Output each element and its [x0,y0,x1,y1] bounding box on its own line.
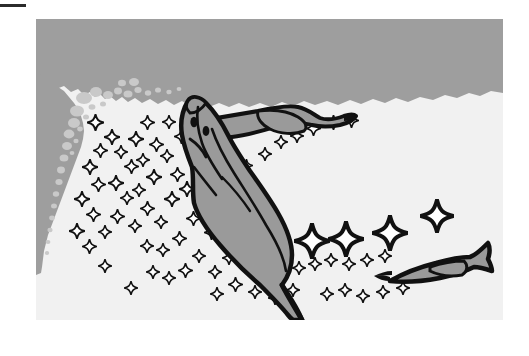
scale-bar-rule [0,4,26,7]
figure-illustration [36,19,503,320]
larva-eye-left [190,117,197,127]
figure-panel [36,19,503,320]
page-root: Fish larvae feeding on plankton near a s… [0,0,529,356]
larva-eye-right [203,126,210,136]
